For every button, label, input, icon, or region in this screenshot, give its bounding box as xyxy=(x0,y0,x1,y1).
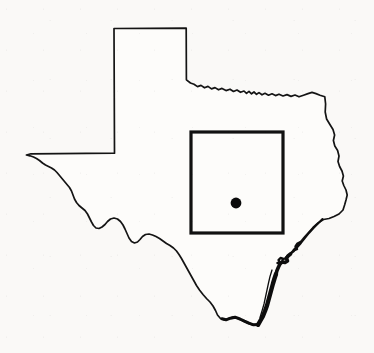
study-site-dot xyxy=(231,198,242,209)
texas-study-area-figure xyxy=(0,0,374,353)
map-canvas xyxy=(0,0,374,353)
